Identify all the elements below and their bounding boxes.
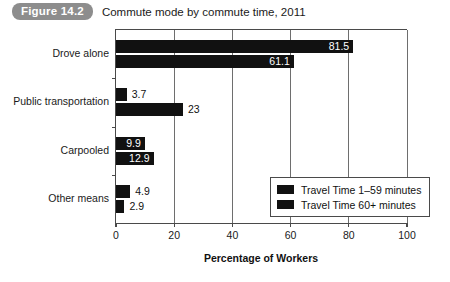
legend-item: Travel Time 1–59 minutes xyxy=(277,182,421,197)
category-label-public-transportation: Public transportation xyxy=(13,95,109,107)
x-tick-100 xyxy=(406,223,407,227)
y-tick xyxy=(112,78,116,79)
x-tick-label-20: 20 xyxy=(168,229,180,241)
legend-item: Travel Time 60+ minutes xyxy=(277,197,421,212)
x-tick-80 xyxy=(348,223,349,227)
figure-title: Commute mode by commute time, 2011 xyxy=(102,6,306,18)
legend-swatch-series-2 xyxy=(277,200,294,209)
category-label-drove-alone: Drove alone xyxy=(52,47,109,59)
x-tick-label-80: 80 xyxy=(343,229,355,241)
figure-number-badge: Figure 14.2 xyxy=(12,3,93,20)
legend-label-series-1: Travel Time 1–59 minutes xyxy=(301,184,421,196)
bar: 12.9 xyxy=(116,152,154,165)
bar-group: Public transportation3.723 xyxy=(116,78,407,126)
bar-value-label: 2.9 xyxy=(129,200,144,213)
figure-header: Figure 14.2 Commute mode by commute time… xyxy=(12,3,306,20)
bar-group: Drove alone81.561.1 xyxy=(116,30,407,78)
bar: 81.5 xyxy=(116,40,353,53)
bar xyxy=(116,88,127,101)
bar-value-label: 3.7 xyxy=(132,88,147,101)
category-label-carpooled: Carpooled xyxy=(61,144,109,156)
bar-value-label: 12.9 xyxy=(129,152,149,165)
x-tick-label-0: 0 xyxy=(113,229,119,241)
bar-value-label: 4.9 xyxy=(135,185,150,198)
y-tick xyxy=(112,175,116,176)
category-label-other-means: Other means xyxy=(48,192,109,204)
y-tick xyxy=(112,127,116,128)
x-tick-60 xyxy=(290,223,291,227)
x-tick-0 xyxy=(115,223,116,227)
x-axis-title: Percentage of Workers xyxy=(115,252,407,264)
bar: 9.9 xyxy=(116,137,145,150)
bar-value-label: 9.9 xyxy=(126,137,141,150)
bar-group: Carpooled9.912.9 xyxy=(116,127,407,175)
x-tick-40 xyxy=(232,223,233,227)
bar xyxy=(116,200,124,213)
bar xyxy=(116,103,183,116)
x-tick-label-100: 100 xyxy=(398,229,416,241)
bar xyxy=(116,185,130,198)
x-tick-20 xyxy=(174,223,175,227)
figure-container: Figure 14.2 Commute mode by commute time… xyxy=(0,0,450,282)
legend-label-series-2: Travel Time 60+ minutes xyxy=(301,199,416,211)
legend-swatch-series-1 xyxy=(277,185,294,194)
bar-value-label: 61.1 xyxy=(269,55,289,68)
bar-value-label: 81.5 xyxy=(329,40,349,53)
x-tick-label-40: 40 xyxy=(227,229,239,241)
chart-legend: Travel Time 1–59 minutes Travel Time 60+… xyxy=(270,177,430,217)
bar: 61.1 xyxy=(116,55,294,68)
x-tick-label-60: 60 xyxy=(285,229,297,241)
bar-value-label: 23 xyxy=(188,103,200,116)
